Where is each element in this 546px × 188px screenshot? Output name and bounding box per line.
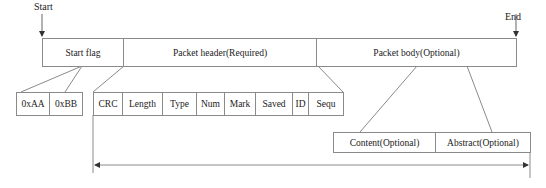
packet-body-label: Packet body(Optional) — [373, 48, 459, 58]
field-label: Content(Optional) — [350, 138, 420, 148]
field-label: Abstract(Optional) — [447, 138, 519, 148]
field-num: Num — [196, 92, 225, 116]
field-label: CRC — [98, 99, 117, 109]
packet-body-box: Packet body(Optional) — [316, 38, 517, 67]
field-label: Num — [201, 99, 220, 109]
end-label: End — [505, 11, 521, 22]
packet-header-box: Packet header(Required) — [123, 38, 317, 67]
field-abstract: Abstract(Optional) — [435, 132, 531, 153]
field-label: Type — [170, 99, 189, 109]
start-flag-label: Start flag — [65, 48, 100, 58]
field-label: 0xAA — [21, 99, 44, 109]
field-sequ: Sequ — [308, 92, 344, 116]
field-label: ID — [295, 99, 305, 109]
field-content: Content(Optional) — [333, 132, 436, 153]
start-flag-box: Start flag — [42, 38, 124, 67]
field-0xbb: 0xBB — [49, 92, 83, 116]
start-label: Start — [34, 1, 53, 12]
field-label: Mark — [230, 99, 251, 109]
field-label: Saved — [262, 99, 285, 109]
field-0xaa: 0xAA — [16, 92, 50, 116]
field-label: Length — [129, 99, 156, 109]
field-type: Type — [162, 92, 197, 116]
field-id: ID — [292, 92, 309, 116]
field-mark: Mark — [224, 92, 256, 116]
field-crc: CRC — [93, 92, 123, 116]
field-length: Length — [122, 92, 163, 116]
field-saved: Saved — [255, 92, 293, 116]
field-label: Sequ — [317, 99, 336, 109]
field-label: 0xBB — [55, 99, 77, 109]
packet-header-label: Packet header(Required) — [173, 48, 267, 58]
